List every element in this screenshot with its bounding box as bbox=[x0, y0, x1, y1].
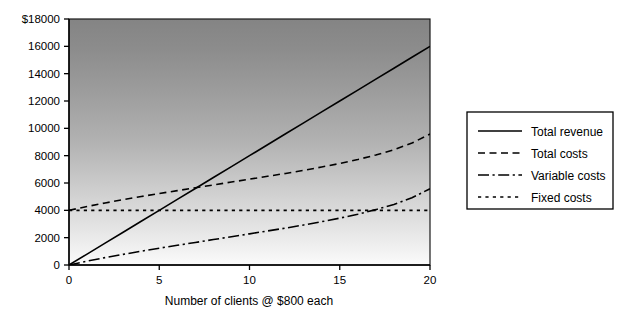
y-tick-label: 4000 bbox=[34, 204, 60, 216]
x-tick-label: 10 bbox=[243, 274, 256, 286]
x-axis-title: Number of clients @ $800 each bbox=[165, 294, 333, 308]
y-tick-label: 8000 bbox=[34, 150, 60, 162]
chart-svg: 0200040006000800010000120001400016000$18… bbox=[0, 0, 629, 330]
x-tick-label: 15 bbox=[333, 274, 346, 286]
y-tick-label: 2000 bbox=[34, 232, 60, 244]
legend-label: Total costs bbox=[531, 147, 588, 161]
chart-figure: 0200040006000800010000120001400016000$18… bbox=[0, 0, 629, 330]
legend-label: Total revenue bbox=[531, 125, 603, 139]
y-tick-label: 16000 bbox=[28, 40, 60, 52]
plot-area-background bbox=[69, 19, 430, 265]
x-tick-label: 5 bbox=[156, 274, 162, 286]
y-tick-label: $18000 bbox=[22, 13, 60, 25]
y-tick-label: 6000 bbox=[34, 177, 60, 189]
legend-label: Fixed costs bbox=[531, 191, 592, 205]
x-tick-label: 0 bbox=[66, 274, 72, 286]
y-tick-label: 14000 bbox=[28, 68, 60, 80]
legend: Total revenueTotal costsVariable costsFi… bbox=[467, 112, 613, 209]
x-tick-label: 20 bbox=[424, 274, 437, 286]
legend-label: Variable costs bbox=[531, 169, 605, 183]
y-tick-label: 0 bbox=[54, 259, 60, 271]
y-tick-label: 12000 bbox=[28, 95, 60, 107]
y-tick-label: 10000 bbox=[28, 122, 60, 134]
